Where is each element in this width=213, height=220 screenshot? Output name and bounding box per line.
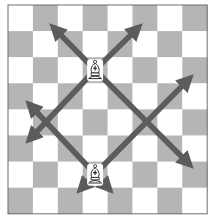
board-square (33, 31, 58, 57)
board-square (8, 109, 33, 135)
board-square (8, 57, 33, 83)
board-square (157, 162, 182, 188)
board-square (33, 136, 58, 162)
board-square (8, 188, 33, 214)
board-square (33, 188, 58, 214)
board-square (58, 5, 83, 31)
board-square (58, 57, 83, 83)
board-square (33, 162, 58, 188)
board-square (83, 136, 108, 162)
board-square (108, 5, 133, 31)
board-square (58, 109, 83, 135)
board-square (133, 136, 158, 162)
board-square (157, 57, 182, 83)
board-square (83, 109, 108, 135)
board-square (182, 5, 207, 31)
board-square (133, 188, 158, 214)
board-square (108, 109, 133, 135)
board-square (108, 188, 133, 214)
board-square (58, 162, 83, 188)
board-square (182, 188, 207, 214)
board-square (182, 109, 207, 135)
board-square (108, 162, 133, 188)
board-square (157, 109, 182, 135)
board-square (83, 5, 108, 31)
board-square (182, 83, 207, 109)
board-square (133, 83, 158, 109)
board-square (8, 5, 33, 31)
board-square (182, 31, 207, 57)
board-square (8, 31, 33, 57)
board-square (133, 162, 158, 188)
board-square (108, 57, 133, 83)
board-square (83, 31, 108, 57)
board-square (33, 83, 58, 109)
board-square (182, 162, 207, 188)
board-square (33, 57, 58, 83)
board-square (157, 5, 182, 31)
board-square (157, 31, 182, 57)
board-square (157, 188, 182, 214)
board-square (8, 162, 33, 188)
chess-diagram (0, 0, 213, 220)
board-square (133, 57, 158, 83)
board-square (83, 83, 108, 109)
board-square (133, 31, 158, 57)
board-square (83, 188, 108, 214)
chess-board (0, 0, 213, 220)
board-square (58, 188, 83, 214)
